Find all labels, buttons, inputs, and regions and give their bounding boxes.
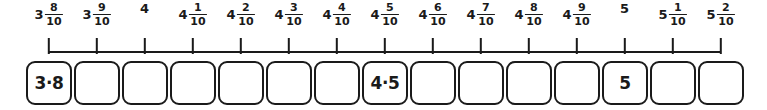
tick-label-fraction: 810: [45, 2, 62, 27]
tick-label-whole: 4: [178, 8, 187, 21]
answer-box-value: 3·8: [34, 75, 63, 92]
tick-mark: [383, 38, 385, 54]
answer-box-empty[interactable]: [554, 61, 600, 105]
tick-mark: [479, 38, 481, 54]
tick-label-fraction: 510: [381, 2, 398, 27]
fraction-numerator: 3: [289, 2, 299, 14]
fraction-numerator: 8: [49, 2, 59, 14]
tick-label-fraction: 310: [285, 2, 302, 27]
tick-label-whole: 5: [706, 8, 715, 21]
tick-label: 4910: [562, 2, 590, 27]
tick-label-whole: 4: [226, 8, 235, 21]
tick-label-whole: 4: [322, 8, 331, 21]
answer-box-empty[interactable]: [314, 61, 360, 105]
tick-mark: [191, 38, 193, 54]
tick-label-whole: 4: [140, 2, 149, 15]
answer-box-filled[interactable]: 3·8: [26, 61, 72, 105]
tick-label-whole: 4: [562, 8, 571, 21]
tick-label-whole: 5: [658, 8, 667, 21]
fraction-denominator: 10: [93, 16, 110, 28]
tick-label-fraction: 210: [237, 2, 254, 27]
answer-box-empty[interactable]: [410, 61, 456, 105]
answer-boxes-row: 3·84·55: [0, 61, 767, 107]
answer-box-filled[interactable]: 5: [602, 61, 648, 105]
tick-label-fraction: 910: [573, 2, 590, 27]
fraction-numerator: 9: [577, 2, 587, 14]
tick-label: 5210: [706, 2, 734, 27]
tick-label: 3810: [34, 2, 62, 27]
tick-label: 5: [620, 2, 629, 15]
fraction-numerator: 4: [337, 2, 347, 14]
tick-mark: [335, 38, 337, 54]
tick-label-fraction: 910: [93, 2, 110, 27]
fraction-numerator: 2: [241, 2, 251, 14]
tick-mark: [239, 38, 241, 54]
tick-label-fraction: 710: [477, 2, 494, 27]
answer-box-filled[interactable]: 4·5: [362, 61, 408, 105]
answer-box-empty[interactable]: [218, 61, 264, 105]
tick-mark: [47, 38, 49, 54]
fraction-numerator: 2: [721, 2, 731, 14]
fraction-numerator: 7: [481, 2, 491, 14]
answer-box-value: 4·5: [370, 75, 399, 92]
tick-mark: [143, 38, 145, 54]
answer-box-empty[interactable]: [122, 61, 168, 105]
tick-mark: [431, 38, 433, 54]
tick-label: 4: [140, 2, 149, 15]
number-line-axis: [0, 38, 767, 58]
tick-label-fraction: 210: [717, 2, 734, 27]
tick-label: 4310: [274, 2, 302, 27]
answer-box-empty[interactable]: [506, 61, 552, 105]
answer-box-empty[interactable]: [458, 61, 504, 105]
fraction-denominator: 10: [717, 16, 734, 28]
fraction-denominator: 10: [285, 16, 302, 28]
tick-mark: [287, 38, 289, 54]
tick-label: 4510: [370, 2, 398, 27]
fraction-denominator: 10: [669, 16, 686, 28]
fraction-denominator: 10: [477, 16, 494, 28]
fraction-numerator: 1: [193, 2, 203, 14]
tick-label-whole: 4: [274, 8, 283, 21]
tick-mark: [719, 38, 721, 54]
answer-box-empty[interactable]: [170, 61, 216, 105]
tick-label: 4110: [178, 2, 206, 27]
tick-labels-row: 3810391044110421043104410451046104710481…: [0, 0, 767, 38]
tick-label-fraction: 110: [189, 2, 206, 27]
tick-label-fraction: 810: [525, 2, 542, 27]
tick-label: 5110: [658, 2, 686, 27]
tick-label-whole: 4: [466, 8, 475, 21]
answer-box-empty[interactable]: [74, 61, 120, 105]
answer-box-empty[interactable]: [698, 61, 744, 105]
fraction-numerator: 1: [673, 2, 683, 14]
answer-box-empty[interactable]: [650, 61, 696, 105]
number-line-worksheet: 3810391044110421043104410451046104710481…: [0, 0, 767, 110]
tick-label: 4810: [514, 2, 542, 27]
tick-label-fraction: 110: [669, 2, 686, 27]
tick-label-whole: 4: [418, 8, 427, 21]
answer-box-empty[interactable]: [266, 61, 312, 105]
tick-label-fraction: 410: [333, 2, 350, 27]
tick-label: 4210: [226, 2, 254, 27]
fraction-numerator: 5: [385, 2, 395, 14]
tick-label-whole: 3: [34, 8, 43, 21]
tick-mark: [623, 38, 625, 54]
tick-mark: [575, 38, 577, 54]
tick-label-whole: 5: [620, 2, 629, 15]
tick-label-fraction: 610: [429, 2, 446, 27]
tick-mark: [671, 38, 673, 54]
fraction-denominator: 10: [333, 16, 350, 28]
tick-label: 4610: [418, 2, 446, 27]
fraction-numerator: 6: [433, 2, 443, 14]
tick-label-whole: 4: [370, 8, 379, 21]
fraction-denominator: 10: [381, 16, 398, 28]
tick-label: 4710: [466, 2, 494, 27]
tick-mark: [95, 38, 97, 54]
fraction-denominator: 10: [573, 16, 590, 28]
tick-label-whole: 4: [514, 8, 523, 21]
tick-label: 4410: [322, 2, 350, 27]
tick-mark: [527, 38, 529, 54]
answer-box-value: 5: [619, 75, 631, 92]
fraction-denominator: 10: [429, 16, 446, 28]
fraction-denominator: 10: [189, 16, 206, 28]
fraction-denominator: 10: [237, 16, 254, 28]
